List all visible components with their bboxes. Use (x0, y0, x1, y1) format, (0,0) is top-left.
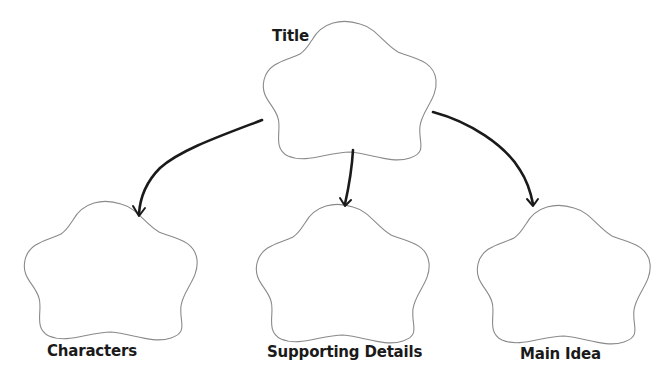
supporting-details-label: Supporting Details (267, 343, 422, 361)
characters-label: Characters (47, 342, 137, 360)
arrow-title-to-main-idea (433, 112, 538, 206)
characters-cloud[interactable] (24, 201, 197, 339)
title-label: Title (272, 27, 309, 45)
arrow-title-to-characters (133, 120, 262, 216)
arrow-title-to-supporting-details (340, 150, 353, 206)
diagram-canvas (0, 0, 671, 377)
main-idea-cloud[interactable] (477, 205, 650, 343)
main-idea-label: Main Idea (520, 345, 601, 363)
supporting-details-cloud[interactable] (256, 204, 429, 342)
